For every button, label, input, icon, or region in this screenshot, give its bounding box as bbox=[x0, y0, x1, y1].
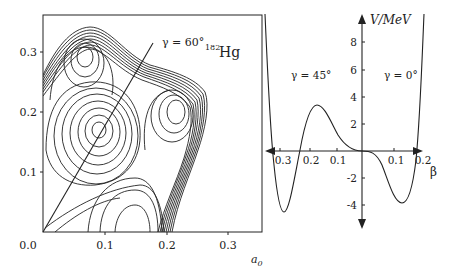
y-tick-0.3: 0.3 bbox=[20, 46, 38, 59]
beta-tick-right-0.1: 0.1 bbox=[388, 154, 405, 166]
x-tick-0.3: 0.3 bbox=[219, 239, 237, 252]
y-tick-0.1: 0.1 bbox=[20, 166, 38, 179]
beta-tick-left-0.3: 0.3 bbox=[275, 154, 292, 166]
beta-tick-left-0.1: 0.1 bbox=[330, 154, 347, 166]
beta-tick-right-0.2: 0.2 bbox=[415, 154, 432, 166]
beta-axis-label: β bbox=[430, 165, 437, 179]
v-axis-arrow-up bbox=[358, 14, 366, 24]
x-axis-label: a0 bbox=[251, 253, 263, 268]
y-tick-0.2: 0.2 bbox=[20, 106, 38, 119]
nucleus-symbol: Hg bbox=[219, 44, 240, 60]
nucleus-mass: 182 bbox=[205, 43, 220, 52]
x-tick-0.1: 0.1 bbox=[96, 239, 114, 252]
x-tick-0.2: 0.2 bbox=[158, 239, 176, 252]
v-tick-4: 4 bbox=[350, 91, 357, 103]
v-tick-8: 8 bbox=[350, 36, 357, 48]
v-tick-6: 6 bbox=[350, 64, 357, 76]
beta-axis-arrow-left bbox=[265, 147, 275, 155]
beta-tick-left-0.2: 0.2 bbox=[303, 154, 320, 166]
v-tick-minus4: -4 bbox=[347, 199, 358, 211]
gamma-0-curve bbox=[362, 14, 424, 203]
v-axis-arrow-down bbox=[358, 219, 366, 229]
figure: 0.3 0.2 0.1 0.0 0.1 0.2 0.3 a0 γ = 60° 1… bbox=[0, 0, 455, 273]
gamma-60-line bbox=[43, 43, 153, 232]
v-tick-2: 2 bbox=[350, 118, 357, 130]
v-axis-label: V/MeV bbox=[370, 13, 412, 27]
v-ticks bbox=[280, 42, 394, 205]
v-tick-minus2: -2 bbox=[347, 172, 357, 184]
origin-label: 0.0 bbox=[19, 239, 37, 252]
potential-plot: 8 6 4 2 -2 -4 0.3 0.2 0.1 0.1 0.2 V/MeV … bbox=[265, 13, 437, 229]
contour-lines bbox=[43, 27, 207, 232]
gamma-45-label: γ = 45° bbox=[291, 69, 331, 81]
gamma-60-label: γ = 60° bbox=[162, 36, 204, 49]
contour-plot: 0.3 0.2 0.1 0.0 0.1 0.2 0.3 a0 γ = 60° 1… bbox=[19, 15, 262, 268]
gamma-0-label: γ = 0° bbox=[384, 69, 418, 81]
